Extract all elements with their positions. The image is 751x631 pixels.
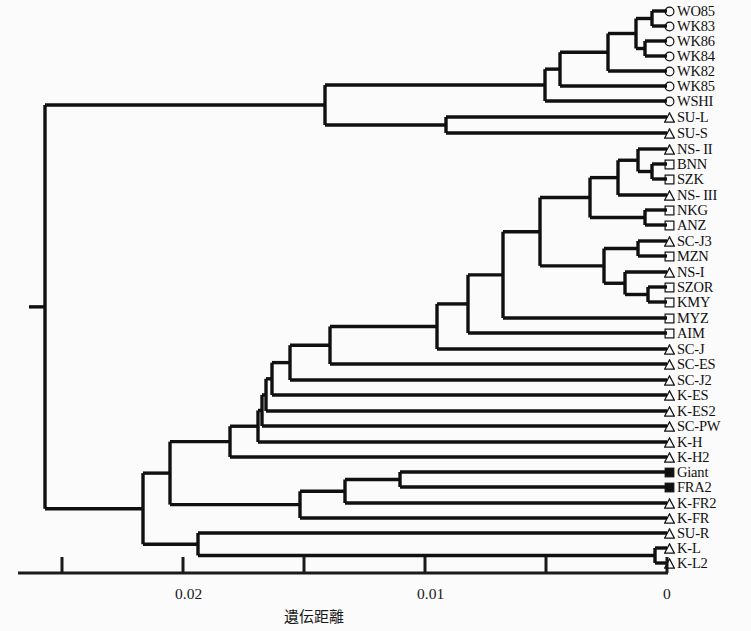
tip-row: WK85 [664, 79, 715, 93]
square-icon [664, 313, 675, 324]
tip-label: FRA2 [677, 480, 712, 495]
tip-row: MYZ [664, 311, 709, 325]
triangle-icon [664, 359, 675, 370]
tip-row: K-FR2 [664, 496, 716, 510]
tip-label: K-H2 [677, 450, 709, 465]
tip-label: K-FR [677, 511, 709, 526]
tip-row: K-ES [664, 388, 708, 402]
tip-label: WO85 [677, 4, 715, 19]
tip-label: K-ES2 [677, 404, 715, 419]
tip-row: NS-I [664, 265, 704, 279]
triangle-icon [664, 390, 675, 401]
tip-label: MZN [677, 249, 709, 264]
tip-label: Giant [677, 465, 708, 480]
tip-row: WK82 [664, 64, 715, 78]
tip-row: K-L [664, 541, 701, 555]
tip-row: SC-ES [664, 357, 716, 371]
tip-row: WK84 [664, 49, 715, 63]
tip-row: SZOR [664, 280, 713, 294]
tip-label: SC-J [677, 342, 704, 357]
tip-label: ANZ [677, 218, 706, 233]
tip-label: WSHI [677, 94, 713, 109]
tip-row: WK86 [664, 34, 715, 48]
circle-icon [664, 21, 675, 32]
tip-row: BNN [664, 157, 707, 171]
tip-row: SU-R [664, 526, 709, 540]
triangle-icon [664, 344, 675, 355]
tip-label: K-L [677, 541, 701, 556]
tip-row: K-FR [664, 511, 709, 525]
tip-label: MYZ [677, 311, 709, 326]
triangle-icon [664, 543, 675, 554]
tip-row: SC-J2 [664, 373, 711, 387]
tip-label: SC-PW [677, 419, 720, 434]
tip-row: SU-S [664, 126, 708, 140]
filled-square-icon [664, 482, 675, 493]
axis-tick-label-002: 0.02 [175, 585, 202, 603]
tip-row: NS- II [664, 142, 712, 156]
triangle-icon [664, 421, 675, 432]
triangle-icon [664, 236, 675, 247]
circle-icon [664, 51, 675, 62]
tip-label: SC-ES [677, 357, 716, 372]
tip-label: SZK [677, 172, 704, 187]
circle-icon [664, 36, 675, 47]
tip-label: NS-I [677, 265, 704, 280]
tip-label: SU-L [677, 110, 708, 125]
tip-row: K-H [664, 435, 702, 449]
square-icon [664, 328, 675, 339]
tip-row: Giant [664, 465, 708, 479]
tip-row: WO85 [664, 4, 715, 18]
triangle-icon [664, 190, 675, 201]
dendrogram-svg [0, 0, 751, 631]
tip-row: AIM [664, 326, 705, 340]
tip-label: SC-J2 [677, 373, 711, 388]
tip-label: AIM [677, 326, 705, 341]
tip-label: WK83 [677, 19, 715, 34]
tip-row: MZN [664, 249, 709, 263]
square-icon [664, 251, 675, 262]
tip-row: WSHI [664, 94, 713, 108]
tip-label: K-L2 [677, 556, 708, 571]
tip-label: WK86 [677, 34, 715, 49]
triangle-icon [664, 128, 675, 139]
tip-label: SZOR [677, 280, 713, 295]
tip-row: K-ES2 [664, 404, 715, 418]
tip-row: NS- III [664, 188, 717, 202]
triangle-icon [664, 498, 675, 509]
filled-square-icon [664, 467, 675, 478]
triangle-icon [664, 375, 675, 386]
triangle-icon [664, 267, 675, 278]
tip-row: K-L2 [664, 556, 708, 570]
triangle-icon [664, 144, 675, 155]
tip-label: BNN [677, 157, 707, 172]
tip-label: SU-S [677, 126, 708, 141]
tip-label: SU-R [677, 526, 709, 541]
circle-icon [664, 96, 675, 107]
square-icon [664, 205, 675, 216]
circle-icon [664, 6, 675, 17]
square-icon [664, 297, 675, 308]
tip-label: KMY [677, 295, 710, 310]
square-icon [664, 159, 675, 170]
triangle-icon [664, 528, 675, 539]
circle-icon [664, 66, 675, 77]
triangle-icon [664, 558, 675, 569]
tip-label: K-FR2 [677, 496, 716, 511]
tip-row: SZK [664, 172, 704, 186]
tip-label: WK85 [677, 79, 715, 94]
tip-row: K-H2 [664, 450, 709, 464]
tip-row: KMY [664, 295, 710, 309]
square-icon [664, 174, 675, 185]
tip-row: SC-PW [664, 419, 720, 433]
triangle-icon [664, 406, 675, 417]
figure-canvas: WO85WK83WK86WK84WK82WK85WSHISU-LSU-SNS- … [0, 0, 751, 631]
square-icon [664, 220, 675, 231]
tip-label-list: WO85WK83WK86WK84WK82WK85WSHISU-LSU-SNS- … [664, 0, 751, 560]
tip-label: K-ES [677, 388, 708, 403]
axis-title: 遺伝距離 [284, 605, 344, 626]
square-icon [664, 282, 675, 293]
tip-row: FRA2 [664, 480, 712, 494]
tip-label: K-H [677, 435, 702, 450]
tip-label: NS- II [677, 142, 712, 157]
